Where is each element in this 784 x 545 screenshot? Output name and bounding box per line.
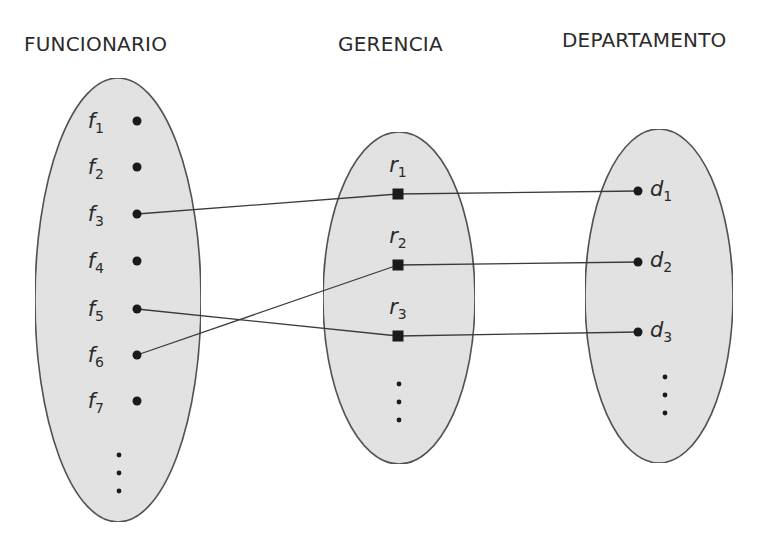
relationship-diagram: f1 f2 f3 f4 f5 f6 f7 r1 r2 r3: [0, 0, 784, 545]
element-node-d3: [634, 328, 643, 337]
gerencia-set-ellipse: [323, 132, 475, 464]
element-node-f2: [133, 163, 142, 172]
element-node-f1: [133, 117, 142, 126]
element-node-f6: [133, 351, 142, 360]
element-node-r3: [393, 331, 404, 342]
element-node-d2: [634, 258, 643, 267]
element-node-d1: [634, 187, 643, 196]
element-node-f5: [133, 305, 142, 314]
element-node-f3: [133, 210, 142, 219]
element-node-f7: [133, 397, 142, 406]
element-node-r1: [393, 189, 404, 200]
element-node-f4: [133, 257, 142, 266]
element-node-r2: [393, 260, 404, 271]
